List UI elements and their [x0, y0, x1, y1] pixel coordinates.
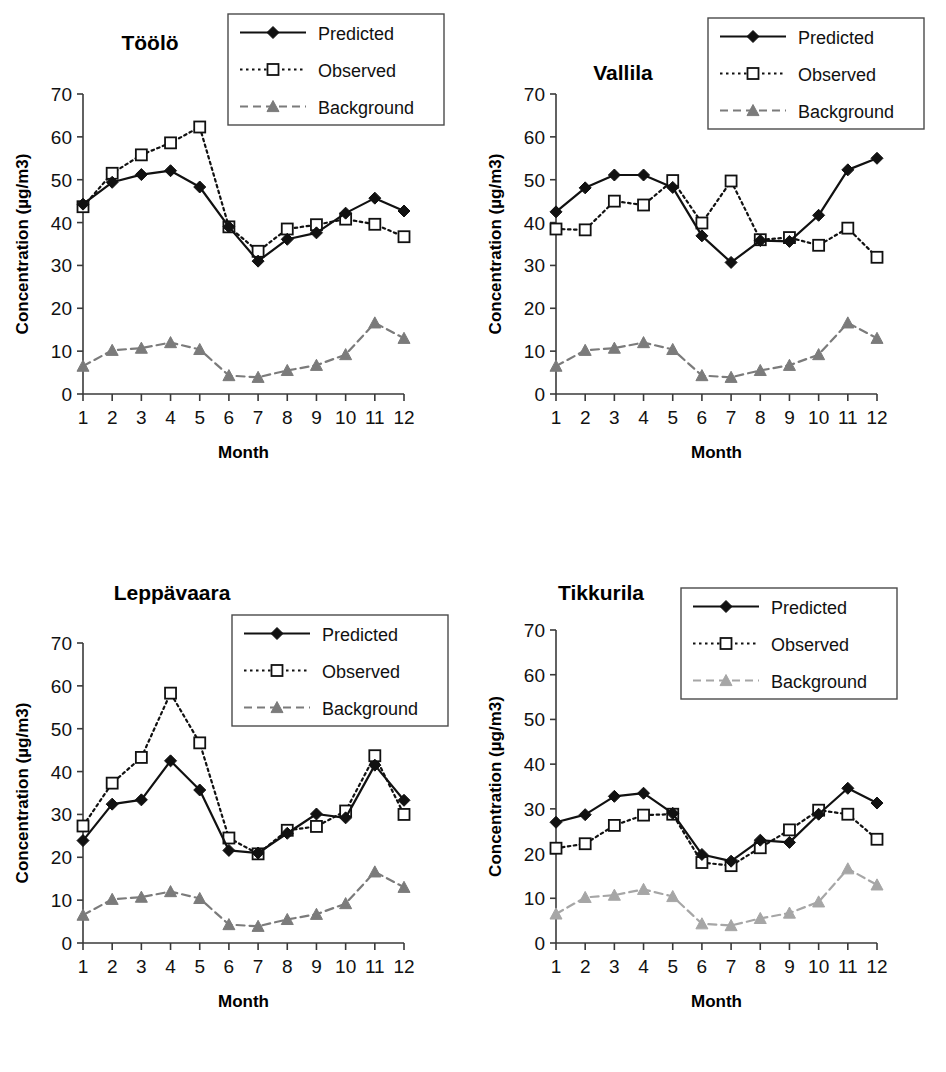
chart-svg: Vallila010203040506070123456789101112Con… — [473, 0, 946, 490]
data-point-observed — [638, 200, 649, 211]
data-point-background — [638, 337, 650, 348]
series-line-background — [556, 869, 877, 926]
y-tick-label: 70 — [524, 84, 545, 105]
legend-item-observed: Observed — [318, 61, 396, 81]
y-tick-label: 50 — [51, 170, 72, 191]
x-tick-label: 1 — [78, 956, 89, 977]
y-tick-label: 10 — [51, 890, 72, 911]
x-tick-label: 5 — [194, 956, 205, 977]
series-line-background — [83, 323, 404, 377]
x-tick-label: 7 — [726, 407, 737, 428]
data-point-background — [106, 893, 118, 904]
x-axis-title: Month — [218, 992, 269, 1011]
x-tick-label: 6 — [224, 956, 235, 977]
data-point-predicted — [165, 165, 177, 177]
series-line-background — [83, 872, 404, 926]
data-point-observed — [609, 196, 620, 207]
data-point-predicted — [579, 809, 591, 821]
x-tick-label: 4 — [165, 407, 176, 428]
chart-panel-leppavaara: Leppävaara010203040506070123456789101112… — [0, 560, 473, 1072]
data-point-background — [369, 866, 381, 877]
x-tick-label: 7 — [253, 407, 264, 428]
x-tick-label: 11 — [838, 407, 858, 428]
data-point-predicted — [608, 169, 620, 181]
chart-svg: Tikkurila010203040506070123456789101112C… — [473, 560, 946, 1072]
x-tick-label: 9 — [311, 407, 322, 428]
data-point-observed — [165, 688, 176, 699]
x-tick-label: 6 — [697, 956, 708, 977]
legend-item-predicted: Predicted — [322, 625, 398, 645]
x-tick-label: 5 — [194, 407, 205, 428]
y-tick-label: 50 — [51, 719, 72, 740]
data-point-predicted — [608, 790, 620, 802]
chart-panel-vallila: Vallila010203040506070123456789101112Con… — [473, 0, 946, 490]
legend-item-predicted: Predicted — [771, 598, 847, 618]
data-point-observed — [842, 223, 853, 234]
y-tick-label: 10 — [524, 341, 545, 362]
x-tick-label: 12 — [866, 956, 887, 977]
y-tick-label: 0 — [534, 933, 545, 954]
x-tick-label: 12 — [393, 956, 414, 977]
data-point-observed — [78, 821, 89, 832]
legend-item-background: Background — [771, 672, 867, 692]
x-axis-title: Month — [691, 443, 742, 462]
x-tick-label: 2 — [107, 407, 118, 428]
y-tick-label: 40 — [524, 754, 545, 775]
chart-title: Leppävaara — [114, 581, 231, 604]
y-tick-label: 20 — [524, 298, 545, 319]
data-point-predicted — [842, 164, 854, 176]
data-point-predicted — [223, 844, 235, 856]
legend-marker-observed — [268, 64, 279, 75]
data-point-observed — [551, 843, 562, 854]
x-tick-label: 7 — [253, 956, 264, 977]
y-tick-label: 30 — [51, 804, 72, 825]
data-point-observed — [194, 737, 205, 748]
y-axis-title: Concentration (µg/m3) — [486, 696, 505, 877]
y-tick-label: 60 — [51, 676, 72, 697]
legend-item-observed: Observed — [771, 635, 849, 655]
x-tick-label: 9 — [784, 407, 795, 428]
data-point-predicted — [310, 808, 322, 820]
data-point-background — [871, 332, 883, 343]
chart-title: Töölö — [121, 31, 178, 54]
chart-panel-tikkurila: Tikkurila010203040506070123456789101112C… — [473, 560, 946, 1072]
y-axis-title: Concentration (µg/m3) — [13, 154, 32, 335]
legend-item-predicted: Predicted — [798, 28, 874, 48]
y-tick-label: 10 — [51, 341, 72, 362]
y-tick-label: 40 — [524, 213, 545, 234]
y-tick-label: 40 — [51, 762, 72, 783]
data-point-observed — [136, 752, 147, 763]
data-point-predicted — [638, 169, 650, 181]
data-point-background — [550, 908, 562, 919]
data-point-predicted — [398, 205, 410, 217]
x-tick-label: 1 — [551, 407, 562, 428]
x-tick-label: 12 — [866, 407, 887, 428]
legend-item-observed: Observed — [322, 662, 400, 682]
x-tick-label: 10 — [808, 956, 829, 977]
data-point-background — [77, 360, 89, 371]
x-axis-title: Month — [691, 992, 742, 1011]
series-line-observed — [556, 181, 877, 258]
x-tick-label: 11 — [365, 407, 385, 428]
data-point-observed — [399, 809, 410, 820]
y-tick-label: 0 — [534, 384, 545, 405]
y-tick-label: 20 — [524, 844, 545, 865]
legend-item-observed: Observed — [798, 65, 876, 85]
data-point-observed — [872, 252, 883, 263]
x-tick-label: 8 — [282, 407, 293, 428]
y-tick-label: 70 — [524, 620, 545, 641]
x-tick-label: 6 — [697, 407, 708, 428]
y-axis-title: Concentration (µg/m3) — [486, 154, 505, 335]
figure-page: Töölö010203040506070123456789101112Conce… — [0, 0, 946, 1072]
data-point-predicted — [871, 797, 883, 809]
data-point-observed — [609, 820, 620, 831]
data-point-observed — [813, 240, 824, 251]
data-point-background — [550, 360, 562, 371]
x-tick-label: 10 — [808, 407, 829, 428]
x-tick-label: 10 — [335, 407, 356, 428]
y-tick-label: 10 — [524, 888, 545, 909]
legend-item-background: Background — [318, 98, 414, 118]
y-axis-title: Concentration (µg/m3) — [13, 703, 32, 884]
data-point-predicted — [871, 152, 883, 164]
data-point-observed — [136, 149, 147, 160]
